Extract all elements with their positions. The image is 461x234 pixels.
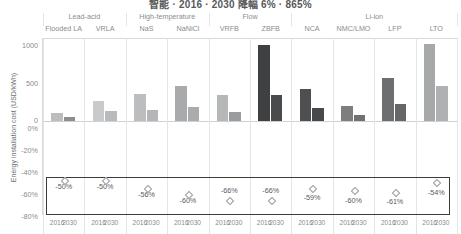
bar-vrfb-2016: [217, 95, 229, 121]
chart-title: 智能 · 2016 · 2030 降幅 6% · 865%: [0, 0, 461, 11]
bar-vrla-2016: [93, 101, 105, 121]
group-divider: [457, 13, 458, 26]
category-label-zbfb: ZBFB: [250, 24, 291, 35]
bar-nas-2030: [147, 110, 159, 121]
x-label-lfp-2030: 2030: [392, 219, 410, 226]
bar-nmc-lmo-2030: [354, 115, 366, 121]
bar-lto-2016: [424, 44, 436, 121]
cell-divider: [43, 38, 44, 234]
chart-root: 智能 · 2016 · 2030 降幅 6% · 865% Energy ins…: [0, 0, 461, 234]
bar-zbfb-2030: [271, 95, 283, 121]
y-tick-pct-20: -20%: [0, 147, 38, 155]
reduction-label-lfp: -61%: [374, 197, 415, 206]
group-label-high-temperature: High-temperature: [126, 12, 209, 23]
category-label-nas: NaS: [126, 24, 167, 35]
x-label-lto-2030: 2030: [433, 219, 451, 226]
reduction-label-nmc-lmo: -60%: [333, 196, 374, 205]
bar-nas-2016: [134, 94, 146, 121]
cell-divider: [457, 38, 458, 234]
reduction-label-zbfb: -66%: [250, 186, 291, 195]
category-label-nanicl: NaNiCl: [167, 24, 208, 35]
y-tick-pct-60: -60%: [0, 191, 38, 199]
category-label-vrla: VRLA: [84, 24, 125, 35]
bar-flooded-la-2030: [64, 117, 76, 121]
bar-nanicl-2016: [175, 86, 187, 121]
reduction-label-lto: -54%: [416, 188, 457, 197]
y-tick-pct-40: -40%: [0, 169, 38, 177]
bar-nca-2016: [300, 89, 312, 121]
bar-nanicl-2030: [188, 107, 200, 121]
x-label-vrfb-2030: 2030: [226, 219, 244, 226]
y-tick-pct-0: 0%: [0, 125, 38, 133]
reduction-label-nca: -59%: [291, 193, 332, 202]
group-label-lead-acid: Lead-acid: [43, 12, 126, 23]
x-label-nmc-lmo-2030: 2030: [351, 219, 369, 226]
group-label-li-ion: Li-ion: [291, 12, 457, 23]
x-label-flooded-la-2030: 2030: [61, 219, 79, 226]
x-label-nca-2030: 2030: [309, 219, 327, 226]
x-label-vrla-2030: 2030: [102, 219, 120, 226]
bar-nca-2030: [312, 108, 324, 121]
group-label-flow: Flow: [209, 12, 292, 23]
y-tick-cost-1000: 1000: [0, 42, 38, 50]
bar-nmc-lmo-2016: [341, 106, 353, 121]
reduction-label-vrfb: -66%: [209, 186, 250, 195]
y-tick-pct-80: -80%: [0, 213, 38, 221]
bar-zbfb-2016: [258, 45, 270, 121]
bar-lfp-2030: [395, 104, 407, 121]
bar-vrfb-2030: [229, 112, 241, 121]
y-tick-cost-500: 500: [0, 80, 38, 88]
x-label-nas-2030: 2030: [144, 219, 162, 226]
y-axis: Energy installation cost (USD/kWh) 1000 …: [0, 38, 41, 228]
x-label-nanicl-2030: 2030: [185, 219, 203, 226]
bar-lfp-2016: [382, 78, 394, 121]
category-label-nmc-lmo: NMC/LMO: [333, 24, 374, 35]
category-label-nca: NCA: [291, 24, 332, 35]
category-label-lfp: LFP: [374, 24, 415, 35]
category-label-vrfb: VRFB: [209, 24, 250, 35]
category-label-flooded-la: Flooded LA: [43, 24, 84, 35]
bar-flooded-la-2016: [51, 113, 63, 121]
bar-vrla-2030: [105, 111, 117, 121]
category-label-lto: LTO: [416, 24, 457, 35]
x-label-zbfb-2030: 2030: [268, 219, 286, 226]
bar-lto-2030: [436, 86, 448, 121]
